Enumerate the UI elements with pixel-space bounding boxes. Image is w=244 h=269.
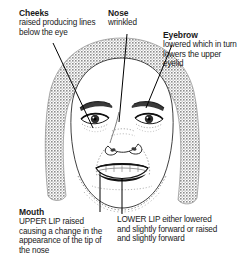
callout-lower-lip: LOWER LIP either lowered and slightly fo… [117, 215, 221, 244]
callout-eyebrow-body: lowered which in turn lowers the upper e… [163, 40, 243, 69]
callout-lower-lip-body: LOWER LIP either lowered and slightly fo… [117, 215, 221, 244]
callout-eyebrow-title: Eyebrow [163, 30, 243, 40]
callout-nose-body: wrinkled [108, 18, 164, 28]
callout-mouth-body: UPPER LIP raised causing a change in the… [19, 217, 111, 255]
callout-mouth: Mouth UPPER LIP raised causing a change … [19, 207, 111, 255]
diagram-page: Cheeks raised producing lines below the … [0, 0, 244, 269]
callout-eyebrow: Eyebrow lowered which in turn lowers the… [163, 30, 243, 69]
callout-cheeks-body: raised producing lines below the eye [19, 18, 105, 37]
callout-cheeks: Cheeks raised producing lines below the … [19, 8, 105, 37]
callout-nose-title: Nose [108, 8, 164, 18]
callout-nose: Nose wrinkled [108, 8, 164, 28]
callout-cheeks-title: Cheeks [19, 8, 105, 18]
callout-mouth-title: Mouth [19, 207, 111, 217]
